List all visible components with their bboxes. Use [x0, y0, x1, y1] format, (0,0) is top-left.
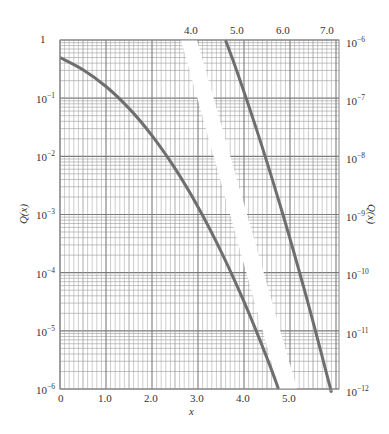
left-y-tick-2: 10−2	[36, 150, 55, 163]
right-y-tick-4: 10−10	[346, 268, 369, 281]
x-axis-title: x	[189, 405, 194, 417]
right-y-tick-3: 10−9	[346, 210, 365, 223]
left-y-tick-4: 10−4	[36, 267, 55, 280]
left-y-tick-5: 10−5	[36, 325, 55, 338]
right-y-tick-0: 10−6	[346, 36, 365, 49]
right-y-tick-6: 10−12	[346, 385, 369, 398]
top-x-tick-0: 4.0	[184, 25, 198, 36]
bottom-x-tick-1: 1.0	[98, 393, 112, 404]
left-y-axis-title: Q(x)	[17, 204, 29, 224]
left-y-tick-0: 1	[40, 34, 46, 45]
left-y-tick-1: 10−1	[36, 92, 55, 105]
top-x-tick-2: 6.0	[276, 25, 290, 36]
bottom-x-tick-2: 2.0	[144, 393, 158, 404]
bottom-x-tick-4: 4.0	[236, 393, 250, 404]
top-x-tick-1: 5.0	[230, 25, 244, 36]
top-x-tick-3: 7.0	[320, 25, 334, 36]
right-y-tick-5: 10−11	[346, 327, 368, 340]
q-function-chart	[0, 0, 389, 434]
right-y-tick-1: 10−7	[346, 94, 365, 107]
bottom-x-tick-5: 5.0	[282, 393, 296, 404]
left-y-tick-3: 10−3	[36, 208, 55, 221]
right-y-tick-2: 10−8	[346, 152, 365, 165]
bottom-x-tick-3: 3.0	[190, 393, 204, 404]
left-y-tick-6: 10−6	[36, 383, 55, 396]
bottom-x-tick-0: 0	[58, 393, 64, 404]
right-y-axis-title: Q(x)	[366, 204, 378, 224]
